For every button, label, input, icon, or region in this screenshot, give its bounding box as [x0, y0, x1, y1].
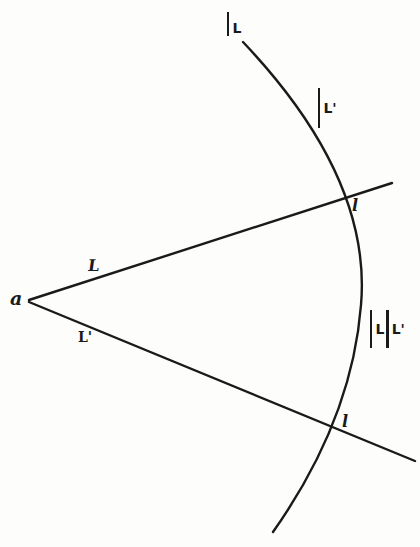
arc-top-magnitude-label: L — [227, 12, 243, 36]
lower-ray-line — [29, 302, 415, 461]
magnitude-bar — [318, 88, 320, 128]
magnitude-text: L — [232, 21, 241, 35]
construction-drawing — [0, 0, 420, 547]
circular-arc — [243, 42, 362, 532]
lower-intersection-label: l — [342, 414, 348, 430]
lower-ray-label: L' — [78, 330, 92, 344]
magnitude-text: L' — [323, 101, 336, 115]
arc-middle-magnitude-label: L L' — [370, 310, 407, 348]
magnitude-bar — [227, 12, 229, 36]
upper-ray-label: L — [87, 258, 100, 274]
upper-intersection-label: l — [352, 198, 358, 214]
arc-upper-magnitude-label: L' — [318, 88, 339, 128]
diagram-figure: a L L' l l L L' L L' — [0, 0, 420, 547]
magnitude-text-1: L — [375, 322, 384, 336]
upper-ray-line — [29, 183, 392, 300]
magnitude-bar-2 — [386, 310, 388, 348]
magnitude-bar-1 — [370, 310, 372, 348]
magnitude-text-2: L' — [392, 322, 405, 336]
vertex-label: a — [10, 289, 22, 308]
